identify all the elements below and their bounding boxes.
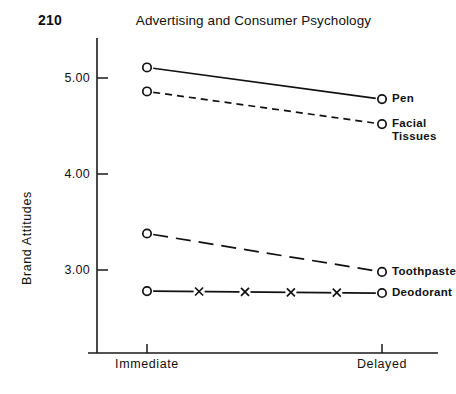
series-label-pen: Pen: [392, 92, 414, 105]
data-point-marker: [378, 268, 386, 276]
data-point-marker: [378, 289, 386, 297]
chart-series-group: [143, 63, 386, 298]
data-point-marker: [143, 287, 151, 295]
series-line-segment: [153, 92, 376, 123]
x-axis-ticks: [147, 344, 382, 353]
y-tick-label: 4.00: [28, 167, 90, 181]
series-deodorant: [143, 286, 386, 298]
x-tick-label: Delayed: [357, 357, 407, 371]
y-tick-label: 5.00: [28, 71, 90, 85]
data-point-marker: [143, 229, 151, 237]
series-line-segment: [153, 291, 376, 293]
y-axis-ticks: [97, 78, 108, 270]
series-label-toothpaste: Toothpaste: [392, 265, 456, 278]
data-point-marker: [143, 87, 151, 95]
series-pen: [143, 63, 386, 103]
series-label-deodorant: Deodorant: [392, 286, 452, 299]
data-point-marker: [378, 95, 386, 103]
series-facial-tissues: [143, 87, 386, 128]
series-toothpaste: [143, 229, 386, 276]
data-point-marker: [378, 120, 386, 128]
y-tick-label: 3.00: [28, 263, 90, 277]
series-line-segment: [153, 68, 376, 98]
data-point-marker: [143, 63, 151, 71]
series-label-facial-tissues: Facial Tissues: [392, 117, 437, 142]
chart-axes: [88, 38, 438, 353]
series-line-segment: [153, 235, 376, 271]
y-axis-title: Brand Attitudes: [20, 191, 34, 285]
x-tick-label: Immediate: [115, 357, 179, 371]
